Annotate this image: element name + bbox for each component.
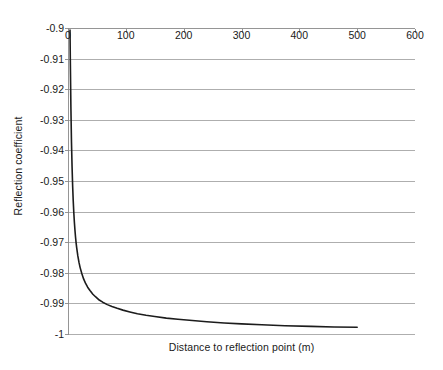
x-tick-label: 500 (327, 30, 387, 40)
x-tick-label: 600 (385, 30, 443, 40)
gridlines (68, 60, 415, 335)
x-axis-title: Distance to reflection point (m) (68, 341, 415, 353)
y-tick-label: -0.97 (20, 237, 64, 247)
y-tick-label: -1 (20, 329, 64, 339)
y-axis-title: Reflection coefficient (12, 96, 24, 236)
y-tick-label: -0.92 (20, 84, 64, 94)
y-tick-label: -0.94 (20, 145, 64, 155)
y-tick-label: -0.98 (20, 268, 64, 278)
data-line-series (70, 30, 357, 327)
x-tick-label: 200 (154, 30, 214, 40)
x-tick-label: 400 (269, 30, 329, 40)
y-tick-label: -0.95 (20, 176, 64, 186)
x-tick-label: 100 (96, 30, 156, 40)
y-tick-label: -0.96 (20, 207, 64, 217)
y-tick-label: -0.91 (20, 54, 64, 64)
y-axis-tick-labels: -0.9 -0.91 -0.92 -0.93 -0.94 -0.95 -0.96… (18, 0, 64, 370)
x-tick-label: 0 (38, 30, 98, 40)
reflection-coefficient-chart: -0.9 -0.91 -0.92 -0.93 -0.94 -0.95 -0.96… (0, 0, 443, 370)
plot-area (0, 0, 443, 370)
y-tick-label: -0.93 (20, 115, 64, 125)
y-tick-label: -0.99 (20, 298, 64, 308)
x-tick-label: 300 (212, 30, 272, 40)
x-axis-tick-labels: 0 100 200 300 400 500 600 (0, 30, 443, 44)
